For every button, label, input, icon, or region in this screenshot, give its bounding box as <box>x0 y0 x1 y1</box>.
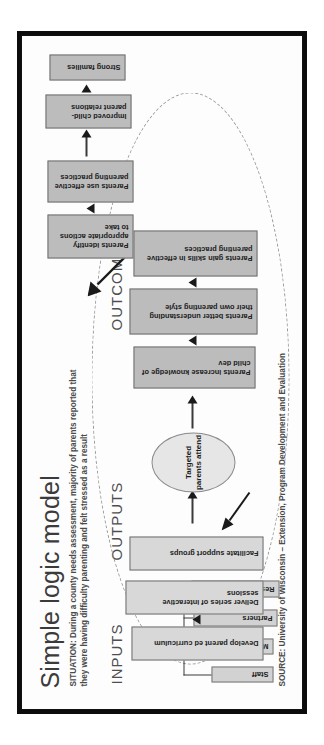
arrow-medium-to-long-term <box>81 129 91 137</box>
page-title: Simple logic model <box>35 475 64 688</box>
outcome-box-gain-skills[interactable]: Parents gain skills in effective parenti… <box>133 230 257 276</box>
activity-label-deliver-sessions: Deliver series of interactive sessions <box>130 588 258 606</box>
participation-label: Targeted parents attend <box>183 433 202 491</box>
outcome-label-use-effective-practices: Parents use effective parenting practice… <box>52 172 128 190</box>
arrow-relations-to-strong-families <box>81 84 91 92</box>
arrow-facilitate-to-oval <box>221 490 251 530</box>
arrow-oval-to-short-term <box>187 395 197 403</box>
activity-box-facilitate-groups[interactable]: Facilitate support groups <box>129 536 263 570</box>
outcome-label-gain-skills: Parents gain skills in effective parenti… <box>138 244 252 262</box>
connector-deliver-to-oval <box>191 495 193 523</box>
scanned-page: Simple logic model SITUATION: During a c… <box>25 39 299 706</box>
outcome-box-strong-families[interactable]: Strong families <box>49 54 125 80</box>
outcome-label-strong-families: Strong families <box>67 63 120 72</box>
arrow-understanding-to-skills <box>188 277 196 287</box>
outcome-label-identify-actions: Parents identify appropriate actions to … <box>52 223 128 250</box>
situation-statement: SITUATION: During a county needs assessm… <box>68 356 89 686</box>
participation-oval-targeted-parents[interactable]: Targeted parents attend <box>151 432 235 492</box>
arrow-knowledge-to-understanding <box>188 335 196 345</box>
outcome-box-better-understanding[interactable]: Parents better understanding their own p… <box>129 288 257 334</box>
outcome-label-increase-knowledge: Parents increase knowledge of child dev <box>138 358 250 376</box>
arrow-identify-to-use-practices <box>86 203 94 213</box>
stage-label-inputs: INPUTS <box>107 623 124 684</box>
outcome-label-better-understanding: Parents better understanding their own p… <box>134 302 252 320</box>
connector-staff-riser <box>183 674 211 675</box>
input-label-staff: Staff <box>252 670 268 679</box>
logic-model-diagram: Simple logic model SITUATION: During a c… <box>25 39 299 706</box>
activity-box-deliver-sessions[interactable]: Deliver series of interactive sessions <box>125 580 263 614</box>
outcome-box-improved-relations[interactable]: Improved child-parent relations <box>45 94 131 128</box>
outcome-box-use-effective-practices[interactable]: Parents use effective parenting practice… <box>47 160 133 202</box>
input-box-staff[interactable]: Staff <box>211 666 273 682</box>
outcome-box-increase-knowledge[interactable]: Parents increase knowledge of child dev <box>133 346 255 388</box>
connector-oval-to-outcomes <box>191 400 193 428</box>
activity-label-develop-curriculum: Develop parent ed curriculum <box>154 639 258 648</box>
arrow-develop-to-deliver <box>192 614 200 624</box>
activity-box-develop-curriculum[interactable]: Develop parent ed curriculum <box>131 626 263 660</box>
outcome-box-identify-actions[interactable]: Parents identify appropriate actions to … <box>47 214 133 258</box>
outcome-label-improved-relations: Improved child-parent relations <box>50 102 126 120</box>
activity-label-facilitate-groups: Facilitate support groups <box>169 549 258 558</box>
connector-partners-riser <box>183 617 193 618</box>
